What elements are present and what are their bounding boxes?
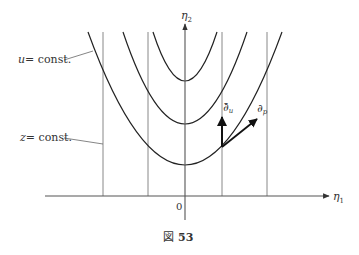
d-u-label: ∂̄u [223, 101, 234, 115]
z-const-label: z= const. [19, 131, 72, 144]
d-p-label: ∂p [257, 102, 268, 116]
figure-caption: 図53 [163, 231, 193, 244]
x-axis-label: η1 [333, 190, 344, 205]
diagram-canvas: η2 η1 0 u= const. z= const. ∂̄u ∂p 図53 [0, 0, 359, 255]
u-const-label: u= const. [18, 53, 71, 66]
origin-label: 0 [176, 201, 182, 212]
y-axis-label: η2 [181, 9, 192, 24]
